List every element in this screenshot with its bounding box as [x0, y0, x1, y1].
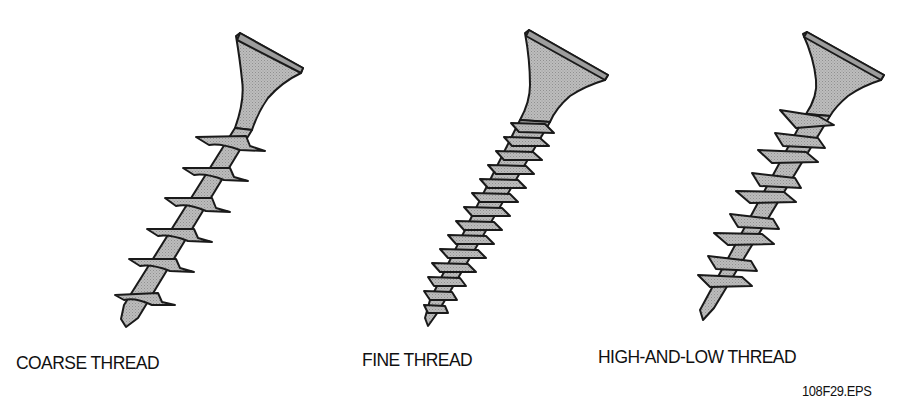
- fine-thread-screw-icon: [424, 30, 608, 326]
- figure-id: 108F29.EPS: [802, 383, 871, 399]
- screw-thread-figure: COARSE THREAD FINE THREAD HIGH-AND-LOW T…: [0, 0, 917, 410]
- high-and-low-thread-caption: HIGH-AND-LOW THREAD: [598, 346, 796, 368]
- high-and-low-thread-screw-icon: [698, 32, 884, 320]
- fine-thread-caption: FINE THREAD: [362, 349, 472, 371]
- coarse-thread-screw-icon: [115, 33, 303, 327]
- coarse-thread-caption: COARSE THREAD: [16, 352, 159, 374]
